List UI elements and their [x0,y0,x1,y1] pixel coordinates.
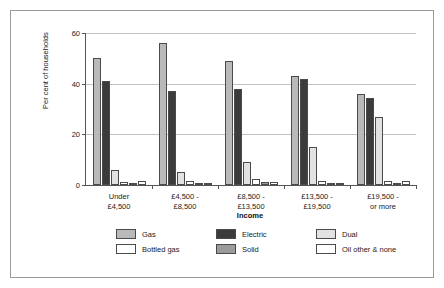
legend-row: GasElectricDual [116,229,416,239]
legend-label: Gas [142,230,156,239]
legend-item-dual[interactable]: Dual [316,229,416,239]
legend-swatch-solid [216,244,236,254]
legend-item-oil-other-none[interactable]: Oil other & none [316,244,416,254]
legend-label: Solid [242,245,259,254]
x-tick-mark [416,185,417,189]
bar-dual [375,117,383,185]
legend-item-gas[interactable]: Gas [116,229,216,239]
x-tick-mark [218,185,219,189]
legend-swatch-gas [116,229,136,239]
y-tick-label: 20 [72,130,80,139]
chart-legend: GasElectricDualBottled gasSolidOil other… [116,229,416,259]
bar-gas [225,61,233,185]
legend-label: Dual [342,230,357,239]
y-tick-label: 60 [72,29,80,38]
legend-row: Bottled gasSolidOil other & none [116,244,416,254]
bar-group [350,33,416,185]
bar-electric [168,91,176,185]
bar-oil-other-none [336,183,344,185]
bar-oil-other-none [270,182,278,185]
bar-electric [102,81,110,185]
chart-figure: Per cent of households 0204060 Under£4,5… [10,10,434,278]
bar-electric [366,98,374,185]
bar-dual [177,172,185,185]
legend-label: Electric [242,230,267,239]
bar-bottled-gas [252,179,260,185]
x-tick-mark [284,185,285,189]
bar-solid [327,183,335,185]
legend-swatch-bottled-gas [116,244,136,254]
bar-dual [243,162,251,185]
legend-label: Oil other & none [342,245,396,254]
bar-gas [291,76,299,185]
bar-oil-other-none [402,181,410,185]
legend-swatch-oil-other-none [316,244,336,254]
legend-item-electric[interactable]: Electric [216,229,316,239]
bar-electric [234,89,242,185]
x-tick-mark [350,185,351,189]
bar-dual [111,170,119,185]
bar-group [218,33,284,185]
x-tick-label-line: £19,500 - [340,192,426,202]
bar-solid [195,183,203,185]
legend-item-bottled-gas[interactable]: Bottled gas [116,244,216,254]
y-axis-label: Per cent of households [41,32,50,109]
bar-bottled-gas [318,181,326,185]
y-tick-label: 0 [76,181,80,190]
bar-bottled-gas [186,181,194,185]
bar-group [284,33,350,185]
legend-item-solid[interactable]: Solid [216,244,316,254]
bar-gas [159,43,167,185]
bar-solid [261,182,269,185]
bar-group [86,33,152,185]
bar-gas [93,58,101,185]
legend-swatch-electric [216,229,236,239]
bar-dual [309,147,317,185]
legend-swatch-dual [316,229,336,239]
x-tick-label: £19,500 -or more [340,192,426,212]
bar-group [152,33,218,185]
bar-solid [129,183,137,185]
bar-oil-other-none [204,183,212,185]
bar-electric [300,79,308,185]
x-axis-label: Income [85,211,415,220]
y-tick-mark [82,185,86,186]
legend-label: Bottled gas [142,245,180,254]
x-tick-mark [152,185,153,189]
y-tick-label: 40 [72,79,80,88]
bar-bottled-gas [384,181,392,185]
bar-gas [357,94,365,185]
bar-bottled-gas [120,182,128,185]
bar-oil-other-none [138,181,146,185]
plot-area: 0204060 Under£4,500£4,500 -£8,500£8,500 … [85,33,416,186]
bar-solid [393,183,401,185]
